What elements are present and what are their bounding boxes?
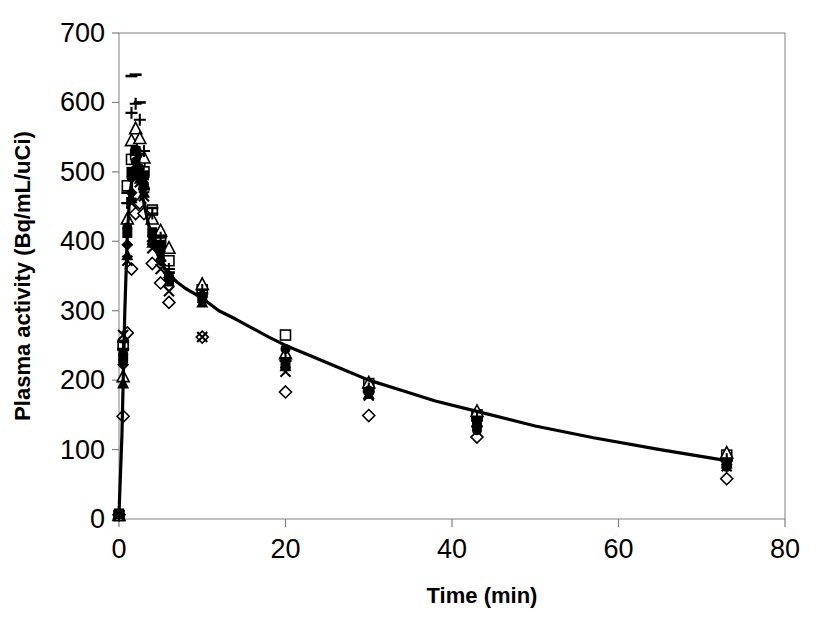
y-axis-tick-label[interactable]: 600 [60,87,105,117]
marker-cross-x[interactable] [164,286,174,296]
y-axis-tick-label[interactable]: 700 [60,18,105,48]
marker-open-diamond[interactable] [721,473,733,485]
marker-open-diamond[interactable] [163,296,175,308]
plot-border[interactable] [119,33,785,519]
y-axis-tick-label[interactable]: 300 [60,296,105,326]
x-axis-tick-label[interactable]: 0 [111,534,126,564]
y-axis-tick-label[interactable]: 200 [60,365,105,395]
y-axis-tick-label[interactable]: 400 [60,226,105,256]
x-axis-tick-label[interactable]: 40 [437,534,467,564]
data-series-subject-5[interactable] [113,122,733,520]
data-series-subject-8[interactable] [114,172,732,520]
x-axis-tick-label[interactable]: 20 [270,534,300,564]
data-series-subject-9[interactable] [113,98,733,520]
y-axis-title[interactable]: Plasma activity (Bq/mL/uCi) [10,131,35,421]
data-series-subject-6[interactable] [113,167,733,519]
y-axis-tick-label[interactable]: 0 [90,504,105,534]
figure-container: 0100200300400500600700020406080Time (min… [0,0,817,636]
x-axis-tick-label[interactable]: 60 [603,534,633,564]
data-series-subject-3[interactable] [113,197,733,521]
plasma-activity-chart: 0100200300400500600700020406080Time (min… [0,0,817,636]
x-axis-tick-label[interactable]: 80 [770,534,800,564]
marker-open-square[interactable] [281,330,291,340]
marker-open-diamond[interactable] [280,386,292,398]
marker-open-diamond[interactable] [363,410,375,422]
y-axis-tick-label[interactable]: 100 [60,435,105,465]
y-axis-tick-label[interactable]: 500 [60,157,105,187]
fitted-curve[interactable] [119,172,727,514]
x-axis-title[interactable]: Time (min) [427,583,538,608]
